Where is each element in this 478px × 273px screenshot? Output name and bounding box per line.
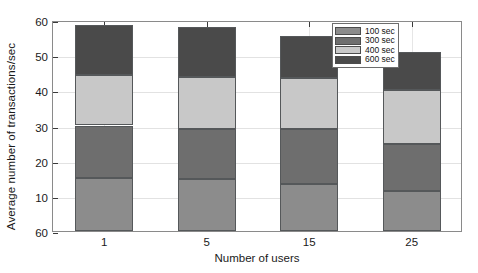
legend-item[interactable]: 600 sec <box>335 55 395 64</box>
bar-segment[interactable] <box>280 36 338 78</box>
x-tick-label: 5 <box>204 236 210 248</box>
bar-segment[interactable] <box>280 184 338 231</box>
bar-segment[interactable] <box>75 25 133 75</box>
x-tick-label: 25 <box>405 236 418 248</box>
bar-segment[interactable] <box>178 77 236 129</box>
y-tick-mark <box>53 128 58 129</box>
bar-segment[interactable] <box>280 129 338 184</box>
legend-swatch <box>335 46 361 54</box>
x-axis-label: Number of users <box>52 252 462 264</box>
y-tick-mark <box>53 92 58 93</box>
bar-segment[interactable] <box>383 144 441 190</box>
legend-swatch <box>335 27 361 35</box>
x-tick-label: 1 <box>101 236 107 248</box>
y-tick-mark <box>53 198 58 199</box>
chart-legend[interactable]: 100 sec300 sec400 sec600 sec <box>332 23 399 68</box>
plot-area: 60504030201060 151525 <box>52 21 462 232</box>
y-tick-label: 50 <box>35 51 48 63</box>
y-tick-mark <box>53 57 58 58</box>
chart-figure: Average number of transactions/sec Numbe… <box>0 0 478 273</box>
legend-swatch <box>335 56 361 64</box>
y-tick-mark <box>53 163 58 164</box>
legend-label: 300 sec <box>365 36 395 45</box>
x-tick-label: 15 <box>303 236 316 248</box>
y-axis-label: Average number of transactions/sec <box>0 0 22 273</box>
legend-swatch <box>335 37 361 45</box>
bar-group[interactable] <box>280 20 338 231</box>
y-tick-label: 60 <box>35 16 48 28</box>
bar-group[interactable] <box>178 20 236 231</box>
y-tick-mark <box>53 22 58 23</box>
y-tick-label: 10 <box>35 192 48 204</box>
y-tick-mark <box>53 233 58 234</box>
y-tick-label: 60 <box>35 227 48 239</box>
bar-segment[interactable] <box>383 90 441 144</box>
legend-label: 600 sec <box>365 55 395 64</box>
bar-group[interactable] <box>75 20 133 231</box>
y-tick-label: 40 <box>35 86 48 98</box>
bar-segment[interactable] <box>178 27 236 77</box>
y-tick-label: 30 <box>35 122 48 134</box>
y-tick-label: 20 <box>35 157 48 169</box>
bar-segment[interactable] <box>75 126 133 179</box>
bar-segment[interactable] <box>280 78 338 129</box>
bar-segment[interactable] <box>178 129 236 179</box>
bar-segment[interactable] <box>75 75 133 125</box>
bar-segment[interactable] <box>75 178 133 231</box>
bar-segment[interactable] <box>178 179 236 231</box>
legend-item[interactable]: 300 sec <box>335 36 395 45</box>
bar-segment[interactable] <box>383 191 441 231</box>
